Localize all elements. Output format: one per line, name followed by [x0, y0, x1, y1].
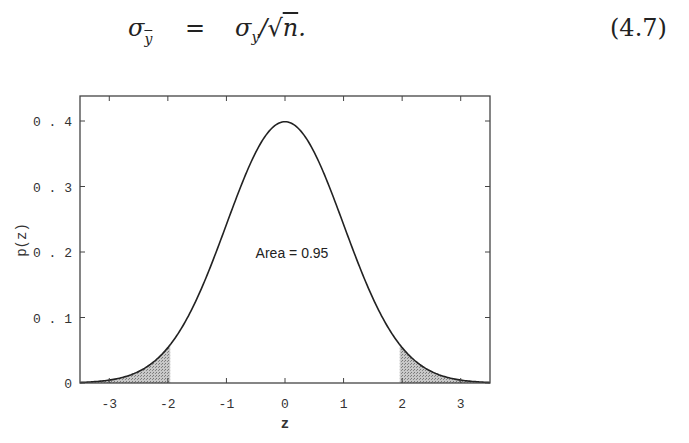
plot-frame: [80, 96, 490, 383]
y-tick-label: 0 . 4: [33, 115, 72, 130]
x-axis-label: z: [281, 416, 289, 432]
x-tick-label: 2: [398, 397, 406, 412]
y-axis-label: p(z): [14, 223, 30, 257]
normal-distribution-chart: -3-2-10123 00 . 10 . 20 . 30 . 4 z p(z) …: [0, 0, 689, 443]
x-tick-label: -2: [160, 397, 176, 412]
tail-shaded-regions: [80, 345, 490, 383]
x-tick-label: 3: [457, 397, 465, 412]
area-annotation: Area = 0.95: [256, 245, 329, 261]
x-tick-label: 1: [340, 397, 348, 412]
x-tick-label: 0: [281, 397, 289, 412]
y-tick-label: 0 . 1: [33, 312, 72, 327]
y-tick-label: 0 . 3: [33, 181, 72, 196]
x-tick-label: -3: [101, 397, 117, 412]
x-tick-label: -1: [219, 397, 235, 412]
y-tick-label: 0: [64, 377, 72, 392]
y-tick-label: 0 . 2: [33, 246, 72, 261]
